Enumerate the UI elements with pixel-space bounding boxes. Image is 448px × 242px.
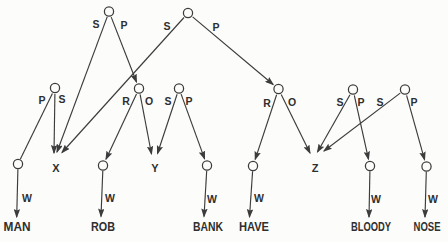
word-arc-bloody-label: W [371,193,381,205]
word-have-text: HAVE [239,220,269,234]
prop2-subject-arc-line [62,18,184,153]
word-arc-have-label: W [254,192,264,204]
predicate-rob-relation-arc-label: R [122,95,130,107]
var-x-label: X [52,162,60,174]
word-arc-rob-line [101,171,103,217]
word-arc-bloody-line [369,171,370,217]
predicate-have-object-arc-label: O [288,96,296,108]
predicate-have-relation-arc-label: R [263,97,271,109]
word-nose-text: NOSE [414,220,441,234]
predicate-rob-object-arc-label: O [145,95,153,107]
word-arc-rob-label: W [105,192,115,204]
node-concept-nose [422,162,431,171]
var-z-label: Z [312,162,319,174]
word-man-text: MAN [4,220,31,234]
labels-layer: SPSPPSROSPROSPSPWWWWWWXYZMANROBBANKHAVEB… [4,18,441,234]
word-arc-nose-line [425,172,426,217]
prop1-predicate-arc-label: P [120,19,127,31]
node-fact-bank [174,84,183,93]
fact-bank-predicate-arc-label: P [185,95,192,107]
prop1-subject-arc-label: S [92,18,99,30]
word-arc-bank-label: W [207,193,217,205]
word-arc-man-label: W [22,192,32,204]
edges-layer [17,17,427,217]
node-concept-man [13,159,22,168]
node-fact-man [50,83,59,92]
fact-bloody-predicate-arc-label: P [357,96,364,108]
var-y-label: Y [151,162,159,174]
fact-man-subject-arc-line [54,94,55,153]
node-concept-rob [98,161,107,170]
word-bloody-text: BLOODY [351,220,391,234]
node-predicate-rob [134,84,143,93]
fact-man-predicate-arc-line [20,93,52,159]
node-fact-bloody [348,85,357,94]
fact-nose-predicate-arc-label: P [410,96,417,108]
node-predicate-have [274,84,283,93]
node-proposition-1 [104,7,113,16]
word-rob-text: ROB [91,220,115,234]
word-arc-nose-label: W [428,193,438,205]
fact-bloody-subject-arc-label: S [336,96,343,108]
semantic-network-figure: SPSPPSROSPROSPSPWWWWWWXYZMANROBBANKHAVEB… [0,0,448,242]
prop2-subject-arc-label: S [163,20,170,32]
fact-bank-subject-arc-label: S [164,95,171,107]
semantic-network-svg: SPSPPSROSPROSPSPWWWWWWXYZMANROBBANKHAVEB… [0,0,448,242]
node-concept-bank [202,161,211,170]
prop2-predicate-arc-line [193,17,274,85]
word-bank-text: BANK [193,220,223,234]
node-proposition-2 [183,8,192,17]
node-fact-nose [400,85,409,94]
fact-man-subject-arc-label: S [58,93,65,105]
word-arc-have-line [250,171,253,217]
node-concept-have [248,161,257,170]
prop1-subject-arc-line [57,17,107,152]
node-concept-bloody [365,161,374,170]
fact-nose-subject-arc-label: S [376,96,383,108]
prop2-predicate-arc-label: P [212,21,219,33]
nodes-layer [13,7,431,171]
word-arc-man-line [17,169,18,217]
fact-man-predicate-arc-label: P [38,94,45,106]
